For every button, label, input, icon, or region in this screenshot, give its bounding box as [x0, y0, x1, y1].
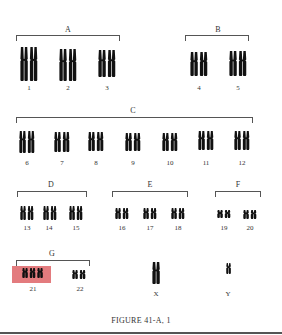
chromatid-pair: [172, 208, 178, 219]
group-bracket-e: [112, 191, 188, 197]
chromatid-pair: [134, 133, 140, 151]
chromosome-7: [54, 132, 70, 152]
chromatid-pair: [73, 270, 79, 279]
chromosome-y: [226, 263, 231, 274]
chromosome-11: [198, 131, 214, 150]
chromatid-pair: [21, 47, 28, 81]
chromosome-number-9: 9: [123, 159, 143, 167]
chromosome-number-4: 4: [189, 84, 209, 92]
chromatid-pair: [108, 50, 115, 77]
chromatid-pair: [44, 206, 50, 220]
chromosome-number-19: 19: [214, 224, 234, 232]
chromosome-4: [190, 52, 208, 76]
chromosome-number-12: 12: [232, 159, 252, 167]
chromatid-pair: [28, 131, 34, 153]
chromatid-pair: [226, 263, 231, 274]
group-bracket-a: [16, 35, 120, 41]
chromatid-pair: [191, 52, 198, 76]
chromosome-12: [234, 131, 250, 150]
chromosome-number-14: 14: [39, 224, 59, 232]
chromatid-pair: [163, 133, 169, 151]
chromatid-pair: [69, 49, 76, 81]
chromosome-15: [69, 206, 83, 220]
chromosome-21: [22, 268, 43, 278]
chromosome-5: [229, 51, 247, 76]
chromatid-pair: [97, 132, 103, 151]
chromosome-9: [125, 133, 141, 151]
chromosome-20: [243, 210, 257, 219]
chromatid-pair: [199, 131, 205, 150]
chromatid-pair: [207, 131, 213, 150]
chromosome-number-3: 3: [97, 84, 117, 92]
chromatid-pair: [51, 206, 57, 220]
chromosome-1: [20, 47, 38, 81]
chromatid-pair: [230, 51, 237, 76]
chromosome-16: [115, 208, 129, 219]
chromatid-pair: [235, 131, 241, 150]
chromosome-6: [19, 131, 35, 153]
chromatid-pair: [22, 268, 28, 278]
chromosome-number-2: 2: [58, 84, 78, 92]
chromatid-pair: [28, 206, 34, 220]
group-label-f: F: [228, 180, 248, 189]
chromatid-pair: [244, 210, 250, 219]
group-label-c: C: [123, 106, 143, 115]
chromatid-pair: [89, 132, 95, 151]
chromatid-pair: [251, 210, 257, 219]
chromosome-number-22: 22: [70, 285, 90, 293]
chromosome-14: [43, 206, 57, 220]
group-bracket-b: [185, 35, 249, 41]
group-bracket-c: [16, 117, 253, 123]
chromosome-number-1: 1: [19, 84, 39, 92]
group-label-d: D: [41, 180, 61, 189]
chromosome-x: [152, 262, 160, 284]
chromatid-pair: [99, 50, 106, 77]
group-label-b: B: [208, 25, 228, 34]
chromatid-pair: [144, 208, 150, 219]
chromosome-number-17: 17: [140, 224, 160, 232]
chromatid-pair: [218, 210, 224, 218]
chromosome-label-y: Y: [218, 290, 238, 298]
chromosome-8: [88, 132, 104, 151]
chromosome-number-6: 6: [17, 159, 37, 167]
chromosome-number-18: 18: [168, 224, 188, 232]
chromosome-number-10: 10: [160, 159, 180, 167]
chromatid-pair: [21, 206, 27, 220]
chromosome-19: [217, 210, 231, 218]
chromatid-pair: [77, 206, 83, 220]
chromosome-13: [20, 206, 34, 220]
chromosome-number-5: 5: [228, 84, 248, 92]
chromatid-pair: [200, 52, 207, 76]
chromosome-number-20: 20: [240, 224, 260, 232]
chromatid-pair: [55, 132, 61, 152]
chromosome-number-16: 16: [112, 224, 132, 232]
chromatid-pair: [179, 208, 185, 219]
chromatid-pair: [30, 47, 37, 81]
chromatid-pair: [116, 208, 122, 219]
chromatid-pair: [37, 268, 43, 278]
chromosome-number-7: 7: [52, 159, 72, 167]
chromatid-pair: [123, 208, 129, 219]
chromosome-18: [171, 208, 185, 219]
chromosome-3: [98, 50, 116, 77]
chromatid-pair: [152, 262, 159, 284]
chromatid-pair: [80, 270, 86, 279]
group-label-a: A: [58, 25, 78, 34]
chromosome-number-15: 15: [66, 224, 86, 232]
group-label-e: E: [140, 180, 160, 189]
group-label-g: G: [42, 249, 62, 258]
chromatid-pair: [29, 268, 35, 278]
chromosome-22: [72, 270, 86, 279]
chromatid-pair: [225, 210, 231, 218]
chromosome-label-x: X: [146, 290, 166, 298]
chromosome-number-11: 11: [196, 159, 216, 167]
group-bracket-f: [215, 191, 261, 197]
chromatid-pair: [126, 133, 132, 151]
chromosome-10: [162, 133, 178, 151]
chromosome-number-13: 13: [17, 224, 37, 232]
group-bracket-d: [17, 191, 87, 197]
chromatid-pair: [243, 131, 249, 150]
chromatid-pair: [60, 49, 67, 81]
chromatid-pair: [63, 132, 69, 152]
chromatid-pair: [239, 51, 246, 76]
